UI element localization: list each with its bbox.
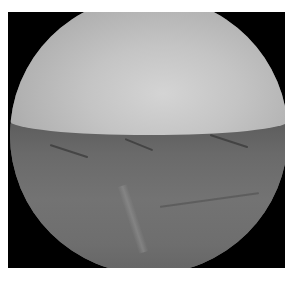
lower-tissue-region [10, 124, 285, 268]
scope-circle [10, 12, 285, 268]
tissue-highlight [117, 184, 148, 254]
tissue-fold [160, 192, 259, 208]
tissue-fold [125, 138, 154, 151]
image-frame: Grayscale arthroscopic view within circu… [8, 12, 285, 268]
upper-surface-region [10, 12, 285, 135]
tissue-fold [50, 144, 89, 158]
tissue-fold [210, 134, 249, 148]
